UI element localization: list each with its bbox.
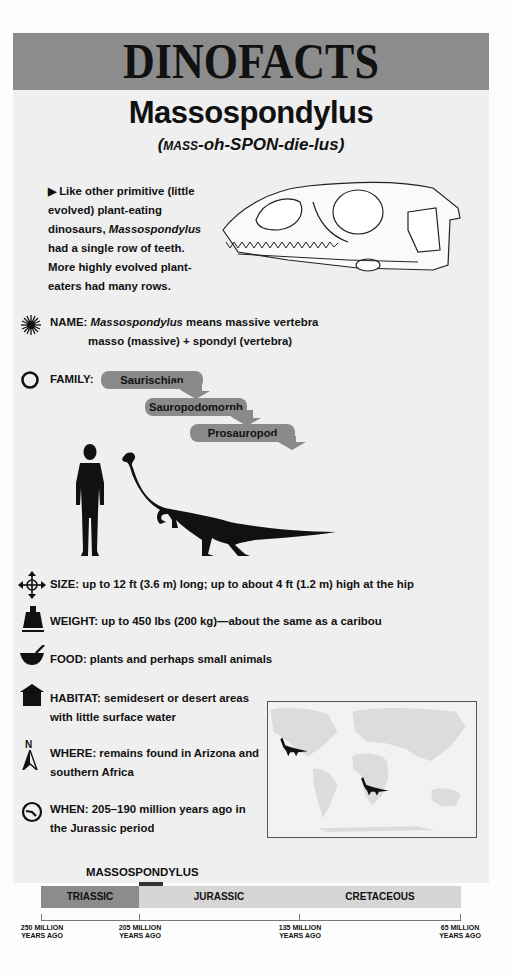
period-jurassic: JURASSIC xyxy=(139,886,299,908)
timeline-axis xyxy=(41,920,461,921)
timeline-marker-label: MASSOSPONDYLUS xyxy=(86,866,199,878)
skull-illustration xyxy=(218,180,468,280)
north-arrow-icon xyxy=(22,750,38,770)
arrow-down-right-icon xyxy=(268,436,308,450)
fact-when: WHEN: 205–190 million years ago inthe Ju… xyxy=(50,800,260,838)
fact-where: WHERE: remains found in Arizona andsouth… xyxy=(50,744,260,782)
north-label: N xyxy=(25,739,32,750)
fact-name: NAME: Massospondylus means massive verte… xyxy=(50,313,490,332)
world-map xyxy=(267,701,477,838)
circle-icon xyxy=(20,370,40,390)
fact-food: FOOD: plants and perhaps small animals xyxy=(50,650,500,669)
family-label: FAMILY: xyxy=(50,370,94,389)
weight-icon xyxy=(22,606,44,632)
tick-label-250: 250 MILLIONYEARS AGO xyxy=(12,924,72,940)
timeline-tick xyxy=(139,914,140,921)
dinosaur-name: Massospondylus xyxy=(13,95,489,131)
arrow-down-right-icon xyxy=(172,383,212,399)
fact-habitat: HABITAT: semidesert or desert areaswith … xyxy=(50,689,260,727)
timeline-tick xyxy=(460,914,461,921)
timeline-tick xyxy=(41,914,42,921)
period-triassic: TRIASSIC xyxy=(41,886,139,908)
starburst-icon xyxy=(20,314,42,336)
fact-size: SIZE: up to 12 ft (3.6 m) long; up to ab… xyxy=(50,575,500,594)
fact-name-etymology: masso (massive) + spondyl (vertebra) xyxy=(88,332,488,351)
tick-label-135: 135 MILLIONYEARS AGO xyxy=(270,924,330,940)
mortar-pestle-icon xyxy=(18,645,46,667)
fact-weight: WEIGHT: up to 450 lbs (200 kg)—about the… xyxy=(50,612,500,631)
timeline-tick xyxy=(299,914,300,921)
clock-icon xyxy=(21,801,43,823)
period-cretaceous: CRETACEOUS xyxy=(299,886,461,908)
tick-label-205: 205 MILLIONYEARS AGO xyxy=(110,924,170,940)
header-banner: DINOFACTS xyxy=(13,33,489,90)
pronunciation: (MASS-oh-SPON-die-lus) xyxy=(13,135,489,155)
human-silhouette xyxy=(70,443,110,558)
bullet-icon: ▶ xyxy=(48,185,56,197)
intro-text: ▶ Like other primitive (little evolved) … xyxy=(48,182,208,296)
tick-label-65: 65 MILLIONYEARS AGO xyxy=(430,924,490,940)
dinosaur-silhouette xyxy=(120,450,340,560)
four-way-arrow-icon xyxy=(18,571,46,599)
page-title: DINOFACTS xyxy=(42,33,461,90)
house-icon xyxy=(20,684,44,706)
